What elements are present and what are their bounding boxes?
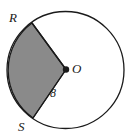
vertex-label-o: O (72, 62, 81, 75)
vertex-label-r: R (9, 11, 17, 24)
geometry-figure: R O S 8 (0, 0, 133, 139)
center-point-dot (63, 66, 69, 72)
vertex-label-s: S (18, 120, 25, 133)
radius-length-label: 8 (50, 87, 56, 99)
